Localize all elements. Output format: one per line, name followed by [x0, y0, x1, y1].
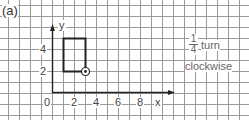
- x-axis-label: x: [154, 97, 162, 108]
- x-tick-2: 2: [70, 97, 78, 108]
- rotation-diagram: (a) y x 4 2 0 2 4 6 8 1 4 turn clockwise: [0, 0, 249, 120]
- y-axis-label: y: [58, 20, 66, 31]
- fraction-one-quarter: 1 4: [189, 34, 198, 55]
- direction-label: clockwise: [185, 61, 232, 72]
- x-tick-0: 0: [43, 97, 51, 108]
- turn-label: turn: [201, 40, 220, 51]
- axes: [50, 24, 175, 95]
- x-tick-6: 6: [114, 97, 122, 108]
- y-tick-2: 2: [39, 66, 47, 77]
- x-tick-8: 8: [136, 97, 144, 108]
- x-tick-4: 4: [92, 97, 100, 108]
- part-label: (a): [2, 4, 18, 17]
- y-tick-4: 4: [39, 44, 47, 55]
- fraction-denominator: 4: [189, 45, 198, 55]
- rotation-centre-dot: [84, 70, 87, 73]
